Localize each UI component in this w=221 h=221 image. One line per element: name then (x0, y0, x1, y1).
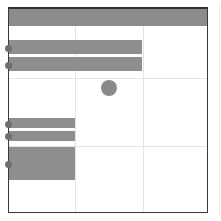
wireframe-panel (8, 7, 208, 213)
circle-marker-icon (101, 80, 117, 96)
grid-line-vertical (143, 26, 144, 212)
grid-line-horizontal (9, 78, 207, 79)
header-bar (9, 9, 207, 26)
handle-dot-icon[interactable] (5, 62, 12, 69)
handle-dot-icon[interactable] (5, 161, 12, 168)
placeholder-bar-4 (9, 131, 75, 141)
placeholder-bar-5 (9, 147, 75, 180)
placeholder-bar-1 (9, 40, 142, 54)
handle-dot-icon[interactable] (5, 45, 12, 52)
handle-dot-icon[interactable] (5, 121, 12, 128)
handle-dot-icon[interactable] (5, 133, 12, 140)
edge-divider (219, 5, 220, 216)
placeholder-bar-3 (9, 118, 75, 128)
placeholder-bar-2 (9, 57, 142, 71)
